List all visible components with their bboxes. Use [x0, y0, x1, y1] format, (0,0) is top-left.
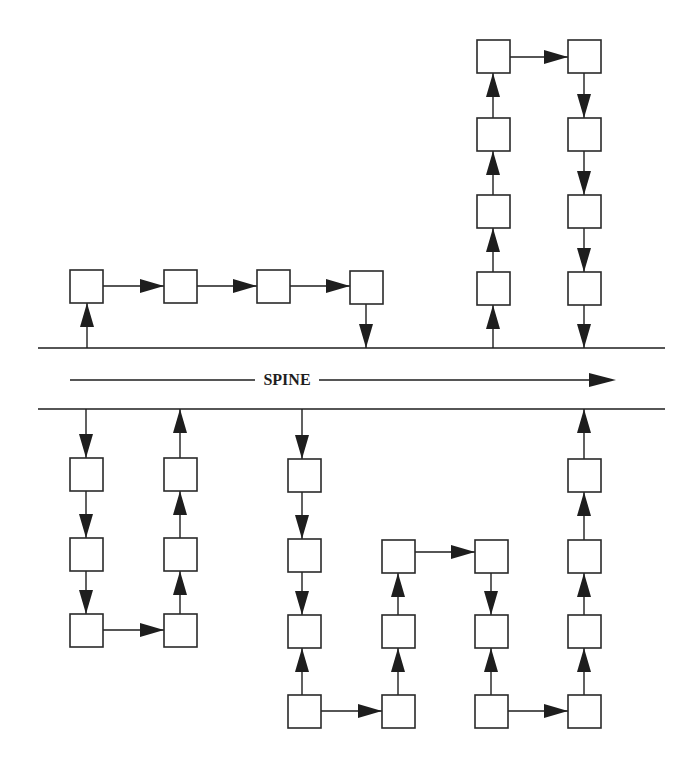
edge [577, 228, 591, 272]
edge [486, 228, 500, 272]
edge [577, 648, 591, 695]
arrowhead-down-icon [79, 434, 93, 458]
edge [577, 573, 591, 615]
arrowhead-up-icon [173, 571, 187, 595]
arrowhead-up-icon [577, 492, 591, 516]
arrowhead-down-icon [484, 591, 498, 615]
node-box-d2 [288, 539, 321, 572]
node-box-c5 [164, 538, 197, 571]
arrowhead-up-icon [486, 73, 500, 97]
node-box-d9 [475, 615, 508, 648]
arrowhead-right-icon [451, 545, 475, 559]
arrowhead-up-icon [486, 305, 500, 329]
edge [103, 623, 164, 637]
node-box-d5 [382, 695, 415, 728]
edge [295, 409, 309, 459]
arrowhead-right-icon [233, 279, 257, 293]
node-box-b2 [477, 195, 510, 228]
arrowhead-right-icon [544, 704, 568, 718]
node-box-d4 [288, 695, 321, 728]
node-box-b5 [568, 40, 601, 73]
node-box-d8 [475, 540, 508, 573]
arrowhead-down-icon [295, 435, 309, 459]
node-box-d14 [568, 459, 601, 492]
arrowhead-up-icon [173, 491, 187, 515]
edge [80, 303, 94, 348]
arrowhead-up-icon [486, 228, 500, 252]
edge [103, 279, 164, 293]
edge [173, 571, 187, 614]
arrowhead-up-icon [295, 648, 309, 672]
arrowhead-up-icon [173, 409, 187, 433]
edge [173, 491, 187, 538]
node-box-b6 [568, 118, 601, 151]
arrowhead-down-icon [79, 590, 93, 614]
spine-label: SPINE [263, 371, 310, 388]
arrowhead-right-icon [140, 623, 164, 637]
node-box-b8 [568, 272, 601, 305]
node-box-c2 [70, 538, 103, 571]
nodes [70, 40, 601, 728]
arrowhead-down-icon [577, 248, 591, 272]
edge [295, 492, 309, 539]
edge [577, 73, 591, 118]
edge [79, 409, 93, 458]
node-box-c1 [70, 458, 103, 491]
node-box-c3 [70, 614, 103, 647]
edge [79, 571, 93, 614]
node-box-d12 [568, 615, 601, 648]
arrowhead-down-icon [577, 324, 591, 348]
arrowhead-right-icon [544, 50, 568, 64]
edge [484, 648, 498, 695]
node-box-c6 [164, 458, 197, 491]
spine: SPINE [38, 348, 665, 409]
node-box-a1 [70, 270, 103, 303]
node-box-a3 [257, 270, 290, 303]
arrowhead-down-icon [359, 324, 373, 348]
node-box-b3 [477, 118, 510, 151]
arrowhead-up-icon [80, 303, 94, 327]
edge [391, 648, 405, 695]
spine-diagram: SPINE [0, 0, 696, 781]
edge [577, 492, 591, 540]
edges [79, 50, 591, 718]
edge [290, 279, 350, 293]
edge [577, 151, 591, 195]
edge [486, 73, 500, 118]
arrowhead-up-icon [391, 573, 405, 597]
node-box-d6 [382, 615, 415, 648]
spine-arrowhead-icon [589, 373, 616, 387]
node-box-d1 [288, 459, 321, 492]
node-box-d10 [475, 695, 508, 728]
arrowhead-down-icon [295, 591, 309, 615]
edge [391, 573, 405, 615]
node-box-b7 [568, 195, 601, 228]
node-box-a2 [164, 270, 197, 303]
edge [577, 305, 591, 348]
node-box-d13 [568, 540, 601, 573]
edge [506, 50, 568, 64]
arrowhead-down-icon [577, 94, 591, 118]
arrowhead-up-icon [577, 573, 591, 597]
node-box-c4 [164, 614, 197, 647]
edge [484, 568, 498, 615]
edge [196, 279, 257, 293]
edge [295, 648, 309, 695]
edge [359, 304, 373, 348]
node-box-b1 [477, 272, 510, 305]
arrowhead-right-icon [358, 704, 382, 718]
node-box-b4 [477, 40, 510, 73]
arrowhead-up-icon [486, 151, 500, 175]
edge [173, 409, 187, 458]
edge [486, 305, 500, 348]
arrowhead-down-icon [79, 514, 93, 538]
edge [79, 491, 93, 538]
node-box-a4 [350, 271, 383, 304]
edge [505, 704, 568, 718]
edge [321, 704, 382, 718]
edge [412, 545, 475, 559]
edge [577, 409, 591, 459]
node-box-d3 [288, 615, 321, 648]
arrowhead-up-icon [577, 648, 591, 672]
arrowhead-up-icon [577, 409, 591, 433]
